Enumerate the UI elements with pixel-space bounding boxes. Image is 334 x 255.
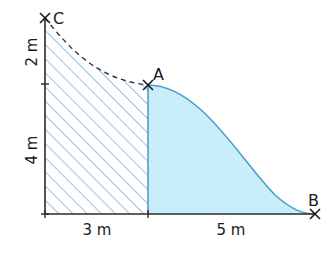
- point-c-label: C: [53, 9, 64, 28]
- dimension-3m: 3 m: [83, 221, 112, 239]
- hatched-region: [45, 18, 148, 214]
- geometry-diagram: C A B 2 m 4 m 3 m 5 m: [0, 0, 334, 255]
- dimension-5m: 5 m: [217, 221, 246, 239]
- point-b-label: B: [308, 191, 319, 210]
- dimension-4m: 4 m: [23, 136, 41, 165]
- dimension-2m: 2 m: [23, 38, 41, 67]
- point-a-label: A: [153, 65, 164, 84]
- filled-region: [148, 85, 315, 214]
